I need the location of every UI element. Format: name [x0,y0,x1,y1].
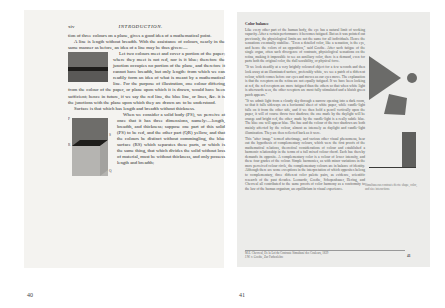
solid-cube-diagram: P R S Q [68,114,112,180]
colour-shapes-figure [367,40,423,170]
footnote-line: J.W. v. Goethe, Zur Farbenlehre [245,256,405,260]
footnote: M.E. Chevreul, De la Loi du Contraste Si… [245,250,405,260]
running-head: xiv INTRODUCTION. [68,24,225,30]
solid-body-figure: P R S Q [68,114,112,180]
paragraph: This "after image" termed afterimage, an… [245,137,365,192]
right-page-text-column: Color balance Like every other part of t… [245,22,365,193]
paragraph: Like every other part of the human body,… [245,28,365,64]
figure-caption: Simultaneous contrast effects: shape, co… [365,184,419,191]
two-colour-line-figure [68,52,108,82]
geometric-shapes-diagram [367,40,423,170]
page-number-left: 40 [27,292,33,298]
left-book-page: xiv INTRODUCTION. tion of three colours … [24,10,224,268]
svg-text:R: R [68,143,71,147]
right-book-page: Color balance Like every other part of t… [237,12,430,267]
page-number-right: 41 [239,292,245,298]
paragraph: "If we look steadily at a very brightly … [245,65,365,97]
running-head-title: INTRODUCTION. [74,24,207,30]
section-title: Color balance [245,22,365,27]
svg-text:S: S [109,133,111,137]
lower-colour-area [68,71,108,82]
left-page-text-column: xiv INTRODUCTION. tion of three colours … [68,24,225,182]
paragraph: "If we admit light from a cloudy sky thr… [245,99,365,135]
paragraph: A line is length without breadth. With t… [68,39,225,51]
svg-text:Q: Q [109,169,112,173]
svg-text:P: P [68,117,70,121]
folio: 41 [407,254,411,258]
